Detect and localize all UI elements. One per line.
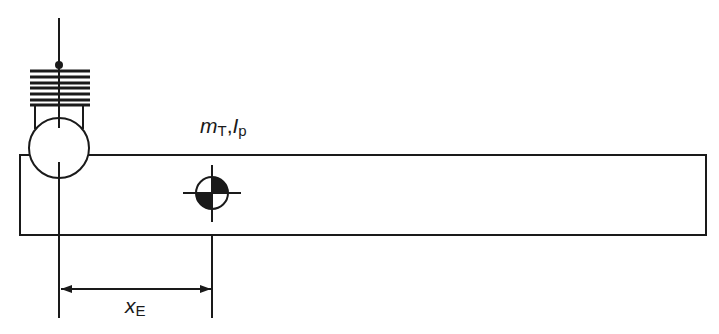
mass-inertia-label: mT,Ip <box>200 114 247 139</box>
diagram-canvas: mT,Ip xE <box>0 0 719 334</box>
beam <box>20 155 706 235</box>
spring-stack <box>30 71 90 105</box>
center-of-gravity-symbol <box>183 165 241 222</box>
distance-label: xE <box>124 294 146 319</box>
rod-joint-dot <box>55 61 63 69</box>
support-rod <box>55 18 63 128</box>
